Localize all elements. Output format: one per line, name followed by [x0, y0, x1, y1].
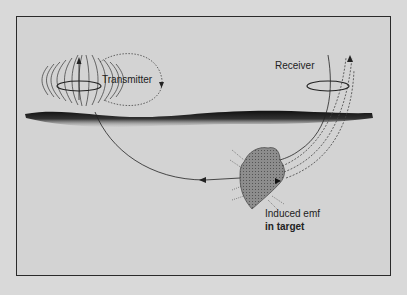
transmitter-label: Transmitter	[102, 75, 152, 85]
return-arrow-down-icon	[159, 82, 164, 88]
in-target-label: in target	[265, 222, 304, 232]
receiver-coil	[307, 81, 349, 91]
primary-arrow-icon	[199, 177, 206, 183]
induced-emf-label: Induced emf	[265, 209, 320, 219]
receiver-arrow-up-icon	[347, 55, 353, 62]
receiver-label: Receiver	[275, 61, 314, 71]
ground-layer	[25, 111, 373, 127]
diagram-canvas	[0, 0, 407, 295]
